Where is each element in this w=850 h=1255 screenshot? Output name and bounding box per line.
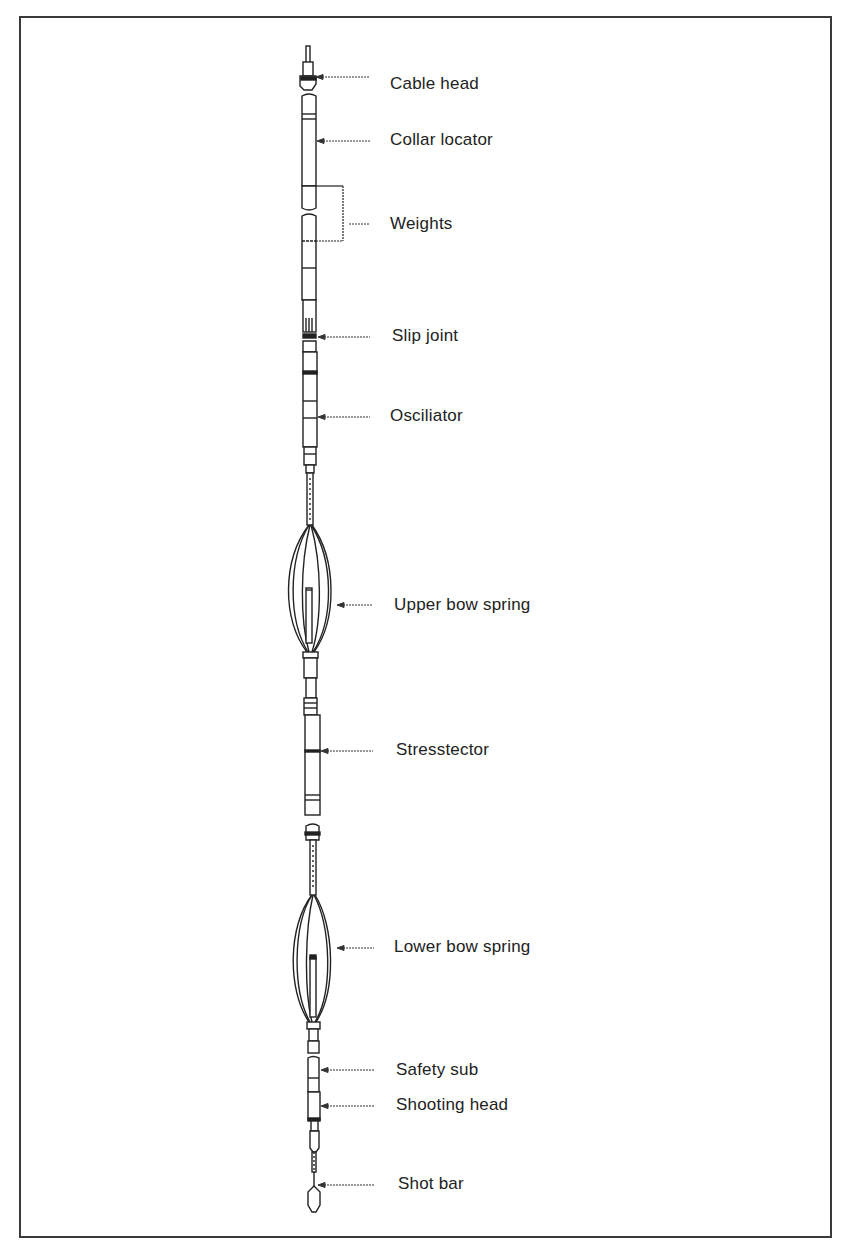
- upper-sub-part: [303, 652, 318, 715]
- cable-head-part: [300, 46, 316, 90]
- arrowhead-icon: [316, 75, 323, 80]
- arrowhead-icon: [321, 749, 328, 754]
- arrowhead-icon: [337, 603, 344, 608]
- label-weights: Weights: [390, 214, 453, 234]
- osciliator-part: [303, 352, 317, 473]
- slip-joint-part: [303, 300, 316, 352]
- upper-cable-part: [307, 473, 313, 525]
- arrowhead-icon: [321, 1068, 328, 1073]
- arrowhead-icon: [317, 139, 324, 144]
- arrowhead-icon: [318, 415, 325, 420]
- collar-locator-part: [302, 94, 316, 186]
- label-collar-locator: Collar locator: [390, 130, 493, 150]
- shot-bar-part: [308, 1172, 320, 1212]
- label-shot-bar: Shot bar: [398, 1174, 464, 1194]
- label-osciliator: Osciliator: [390, 406, 463, 426]
- label-safety-sub: Safety sub: [396, 1060, 478, 1080]
- arrowhead-icon: [337, 946, 344, 951]
- label-upper-bow-spring: Upper bow spring: [394, 595, 530, 615]
- lower-cable-part: [310, 840, 316, 895]
- arrowhead-icon: [321, 1104, 328, 1109]
- label-slip-joint: Slip joint: [392, 326, 458, 346]
- shooting-head-part: [308, 1092, 320, 1172]
- weights-bracket: [316, 186, 343, 241]
- upper-bow-spring-part: [288, 525, 331, 652]
- weights-part: [302, 186, 316, 300]
- label-cable-head: Cable head: [390, 74, 479, 94]
- label-shooting-head: Shooting head: [396, 1095, 508, 1115]
- label-lower-bow-spring: Lower bow spring: [394, 937, 530, 957]
- label-stresstector: Stresstector: [396, 740, 489, 760]
- stresstector-part: [305, 715, 320, 840]
- lower-bow-spring-part: [293, 895, 330, 1022]
- safety-sub-part: [308, 1057, 319, 1093]
- lower-sub-part: [307, 1022, 320, 1053]
- arrowhead-icon: [318, 1183, 325, 1188]
- arrowhead-icon: [318, 335, 325, 340]
